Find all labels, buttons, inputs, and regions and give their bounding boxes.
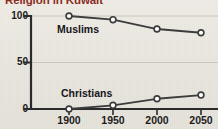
data-point-muslims-2000 [154,26,160,32]
data-point-muslims-1900 [66,13,72,19]
data-point-muslims-1950 [110,17,116,23]
series-line-christians [69,95,201,109]
data-point-christians-2050 [198,92,204,98]
plot-area [0,0,218,129]
data-point-muslims-2050 [198,30,204,36]
data-point-christians-2000 [154,96,160,102]
chart-figure: Religion in Kuwait 100 50 0 1900 1950 20… [0,0,218,129]
series-line-muslims [69,16,201,33]
data-point-christians-1950 [110,102,116,108]
data-point-christians-1900 [66,106,72,112]
